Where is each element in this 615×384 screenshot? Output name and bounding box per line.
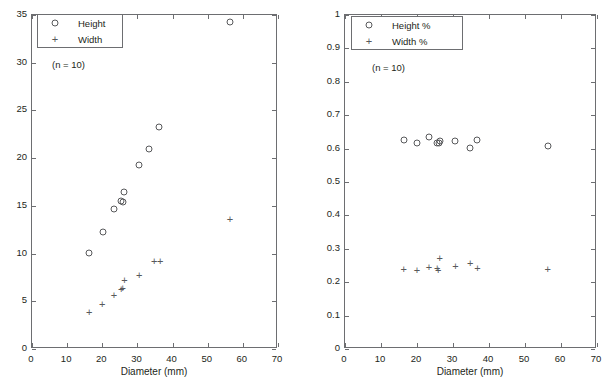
data-point-plus xyxy=(399,264,408,273)
circle-marker-icon xyxy=(352,17,386,33)
x-tick-label: 30 xyxy=(131,354,142,364)
data-point-circle xyxy=(99,228,106,235)
y-tick-label: 1 xyxy=(314,9,340,19)
legend-right: Height % Width % xyxy=(351,16,463,50)
y-tick-label: 30 xyxy=(1,57,27,67)
legend-item-height-pct: Height % xyxy=(352,17,462,33)
legend-label-width: Width xyxy=(72,34,102,45)
y-tick xyxy=(272,254,276,255)
data-point-circle xyxy=(155,123,162,130)
data-point-plus xyxy=(473,264,482,273)
data-point-circle xyxy=(467,144,474,151)
x-tick xyxy=(597,15,598,19)
data-point-plus xyxy=(543,264,552,273)
y-tick xyxy=(272,63,276,64)
y-tick xyxy=(32,110,36,111)
data-point-circle xyxy=(437,138,444,145)
y-tick xyxy=(591,115,595,116)
x-tick xyxy=(208,343,209,347)
x-tick xyxy=(525,343,526,347)
y-tick xyxy=(32,63,36,64)
y-tick-label: 15 xyxy=(1,200,27,210)
y-tick-label: 0.4 xyxy=(314,210,340,220)
x-tick xyxy=(67,343,68,347)
x-tick xyxy=(597,343,598,347)
legend-label-height: Height xyxy=(72,18,105,29)
legend-label-width-pct: Width % xyxy=(386,36,427,47)
x-tick xyxy=(173,343,174,347)
x-tick-label: 50 xyxy=(519,354,530,364)
data-point-circle xyxy=(425,133,432,140)
y-tick xyxy=(345,249,349,250)
figure: 01020304050607005101520253035 Diameter (… xyxy=(0,0,615,384)
x-tick xyxy=(278,343,279,347)
y-tick xyxy=(32,15,36,16)
x-tick xyxy=(345,343,346,347)
x-tick-label: 10 xyxy=(61,354,72,364)
data-point-plus xyxy=(85,307,94,316)
x-tick xyxy=(137,15,138,19)
x-tick-label: 0 xyxy=(341,354,346,364)
y-tick-label: 0.5 xyxy=(314,176,340,186)
x-tick xyxy=(278,15,279,19)
data-point-circle xyxy=(136,161,143,168)
y-tick-label: 0.3 xyxy=(314,243,340,253)
x-tick xyxy=(489,15,490,19)
y-tick-label: 20 xyxy=(1,152,27,162)
x-tick-label: 30 xyxy=(447,354,458,364)
x-tick xyxy=(137,343,138,347)
x-tick-label: 40 xyxy=(166,354,177,364)
data-point-circle xyxy=(146,145,153,152)
x-tick-label: 10 xyxy=(375,354,386,364)
y-tick xyxy=(591,282,595,283)
y-tick xyxy=(591,249,595,250)
y-tick xyxy=(272,206,276,207)
y-tick xyxy=(591,316,595,317)
y-tick xyxy=(272,110,276,111)
y-tick xyxy=(591,82,595,83)
y-tick xyxy=(32,349,36,350)
y-tick-label: 0.7 xyxy=(314,109,340,119)
chart-panel-left: 01020304050607005101520253035 Diameter (… xyxy=(0,0,307,384)
y-tick-label: 0 xyxy=(314,343,340,353)
plus-marker-icon xyxy=(352,33,386,49)
x-tick xyxy=(173,15,174,19)
data-point-plus xyxy=(413,266,422,275)
x-axis-title-left: Diameter (mm) xyxy=(121,366,188,377)
data-point-circle xyxy=(400,137,407,144)
data-point-circle xyxy=(110,205,117,212)
y-tick xyxy=(345,149,349,150)
x-tick-label: 60 xyxy=(555,354,566,364)
y-tick xyxy=(345,48,349,49)
legend-item-height: Height xyxy=(38,15,122,31)
y-tick-label: 0.9 xyxy=(314,43,340,53)
y-tick-label: 35 xyxy=(1,9,27,19)
data-point-plus xyxy=(451,262,460,271)
data-point-circle xyxy=(86,249,93,256)
x-tick xyxy=(417,343,418,347)
y-tick xyxy=(591,15,595,16)
x-tick xyxy=(381,343,382,347)
y-tick xyxy=(345,182,349,183)
y-tick-label: 5 xyxy=(1,296,27,306)
x-tick xyxy=(489,343,490,347)
x-tick xyxy=(243,15,244,19)
data-point-plus xyxy=(434,266,443,275)
x-tick-label: 50 xyxy=(201,354,212,364)
x-tick-label: 20 xyxy=(411,354,422,364)
x-tick-label: 20 xyxy=(96,354,107,364)
y-tick-label: 0.6 xyxy=(314,143,340,153)
y-tick xyxy=(272,349,276,350)
y-tick xyxy=(345,215,349,216)
x-tick xyxy=(32,343,33,347)
x-tick-label: 70 xyxy=(591,354,602,364)
legend-left: Height Width xyxy=(37,14,123,48)
sample-size-note-right: (n = 10) xyxy=(372,62,405,73)
y-tick xyxy=(591,149,595,150)
y-tick xyxy=(345,15,349,16)
y-tick xyxy=(345,115,349,116)
x-tick xyxy=(243,343,244,347)
y-tick-label: 0.2 xyxy=(314,276,340,286)
x-tick xyxy=(561,15,562,19)
data-point-circle xyxy=(121,189,128,196)
